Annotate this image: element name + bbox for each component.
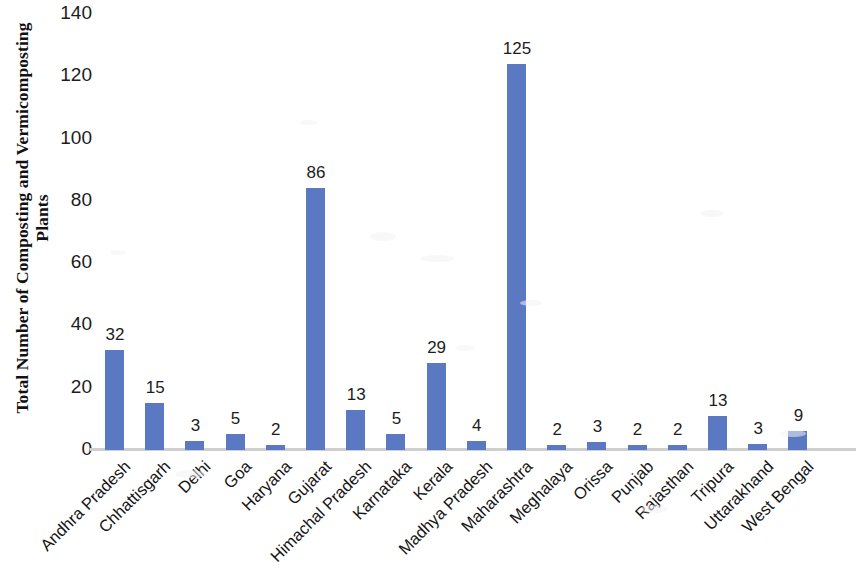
bar-group: 125 [497,0,537,450]
bar [788,431,807,450]
bar-value-label: 3 [738,419,778,439]
bar [105,350,124,450]
bar-group: 32 [95,0,135,450]
bar-value-label: 3 [175,416,215,436]
bar-group: 3 [175,0,215,450]
bar-group: 3 [577,0,617,450]
bar-value-label: 5 [216,409,256,429]
bar [628,445,647,450]
bar [668,445,687,450]
bar-group: 2 [618,0,658,450]
bar [226,434,245,450]
bar-group: 3 [738,0,778,450]
bar-value-label: 125 [497,39,537,59]
y-tick-label: 60 [34,251,92,273]
bar [386,434,405,450]
bar [306,188,325,450]
bar-value-label: 2 [537,420,577,440]
y-tick-label: 40 [34,313,92,335]
y-tick-label: 120 [34,64,92,86]
bar [185,441,204,450]
y-tick-label: 20 [34,376,92,398]
bar [346,410,365,450]
bar-value-label: 5 [376,409,416,429]
bar-value-label: 29 [417,338,457,358]
bar-value-label: 3 [577,417,617,437]
y-tick-label: 140 [34,2,92,24]
bar [507,64,526,450]
bar-value-label: 2 [658,420,698,440]
bar [266,445,285,450]
bar-group: 5 [376,0,416,450]
bar-value-label: 9 [778,406,818,426]
bar-group: 4 [457,0,497,450]
bar-group: 13 [336,0,376,450]
bar [708,416,727,450]
bar-value-label: 4 [457,416,497,436]
bar-value-label: 2 [256,420,296,440]
bar-group: 13 [698,0,738,450]
x-axis-category-labels: Andhra PradeshChhattisgarhDelhiGoaHaryan… [96,451,861,585]
bar-value-label: 86 [296,163,336,183]
bar-chart: Total Number of Composting and Vermicomp… [0,0,861,585]
y-tick-label: 100 [34,127,92,149]
bar-value-label: 13 [698,391,738,411]
bar-group: 2 [256,0,296,450]
bar-group: 29 [417,0,457,450]
bar-value-label: 13 [336,385,376,405]
y-tick-label: 0 [34,438,92,460]
bar-value-label: 15 [135,378,175,398]
bar [547,445,566,450]
bar-group: 9 [778,0,818,450]
bar [587,442,606,450]
bar-group: 2 [658,0,698,450]
bar [427,363,446,450]
bar [145,403,164,450]
bar [748,444,767,450]
bar-group: 15 [135,0,175,450]
plot-area: 32153528613529412523221339 [96,0,861,451]
bar-group: 5 [216,0,256,450]
y-tick-label: 80 [34,189,92,211]
bar [467,441,486,450]
bar-group: 86 [296,0,336,450]
bar-value-label: 32 [95,325,135,345]
bar-group: 2 [537,0,577,450]
bar-value-label: 2 [618,420,658,440]
